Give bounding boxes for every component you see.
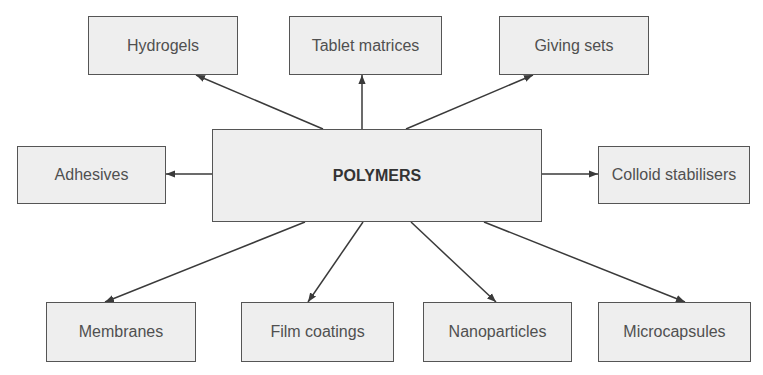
node-label: Hydrogels <box>127 37 199 55</box>
node-film-coatings: Film coatings <box>241 302 394 362</box>
node-giving-sets: Giving sets <box>499 16 649 75</box>
node-label: Nanoparticles <box>449 323 547 341</box>
node-membranes: Membranes <box>46 302 196 362</box>
node-adhesives: Adhesives <box>17 146 166 204</box>
node-tablet-matrices: Tablet matrices <box>289 16 442 75</box>
node-nanoparticles: Nanoparticles <box>423 302 572 362</box>
arrow-film-coatings <box>308 222 363 302</box>
node-hydrogels: Hydrogels <box>88 16 238 75</box>
node-label: Colloid stabilisers <box>612 166 737 184</box>
node-polymers: POLYMERS <box>212 129 542 222</box>
node-label: Membranes <box>79 323 163 341</box>
node-label: Tablet matrices <box>312 37 420 55</box>
arrow-nanoparticles <box>411 222 496 302</box>
node-label: POLYMERS <box>333 167 421 185</box>
node-label: Adhesives <box>55 166 129 184</box>
arrow-giving-sets <box>406 75 533 129</box>
arrow-microcapsules <box>484 222 685 302</box>
node-label: Microcapsules <box>623 323 725 341</box>
node-colloid-stabilisers: Colloid stabilisers <box>598 146 750 204</box>
arrow-hydrogels <box>196 75 323 129</box>
node-label: Film coatings <box>270 323 364 341</box>
node-microcapsules: Microcapsules <box>598 302 751 362</box>
arrow-membranes <box>105 222 305 302</box>
node-label: Giving sets <box>534 37 613 55</box>
